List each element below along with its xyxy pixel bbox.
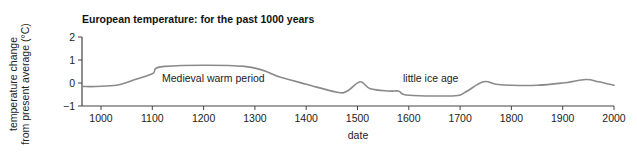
y-axis-label-line2: from present average (°C): [19, 23, 31, 145]
x-tick-label: 1600: [397, 112, 421, 124]
y-tick-label: −1: [63, 100, 75, 112]
y-tick-label: 1: [69, 54, 75, 66]
y-tick-label: 2: [69, 31, 75, 43]
y-axis-label: temperature change from present average …: [7, 23, 31, 145]
chart-title: European temperature: for the past 1000 …: [82, 13, 314, 25]
x-axis-label: date: [348, 129, 369, 141]
x-tick-label: 2000: [602, 112, 626, 124]
x-tick-label: 1000: [89, 112, 113, 124]
annotation-little-ice-age: little ice age: [403, 72, 459, 84]
x-tick-label: 1100: [141, 112, 164, 124]
x-tick-label: 1800: [500, 112, 524, 124]
x-tick-label: 1500: [346, 112, 370, 124]
x-tick-label: 1400: [295, 112, 319, 124]
annotation-medieval-warm-period: Medieval warm period: [162, 72, 265, 84]
x-axis: 1000110012001300140015001600170018001900…: [82, 106, 626, 124]
y-axis: 210−1: [63, 31, 82, 112]
x-tick-label: 1200: [192, 112, 216, 124]
y-axis-label-line1: temperature change: [7, 37, 19, 131]
temperature-chart: European temperature: for the past 1000 …: [0, 0, 637, 152]
x-tick-label: 1700: [448, 112, 472, 124]
y-tick-label: 0: [69, 77, 75, 89]
x-tick-label: 1900: [551, 112, 575, 124]
x-tick-label: 1300: [243, 112, 267, 124]
